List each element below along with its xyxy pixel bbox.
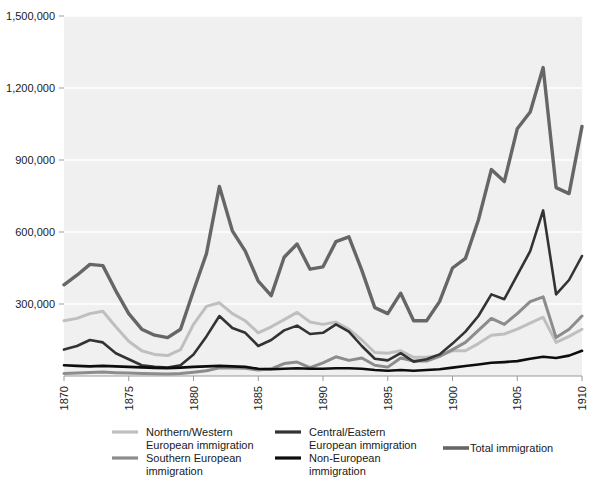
legend-label: Southern European bbox=[146, 452, 241, 464]
x-tick-label: 1910 bbox=[576, 386, 588, 410]
y-tick-label: 900,000 bbox=[15, 154, 55, 166]
y-tick-label: 1,500,000 bbox=[6, 10, 55, 22]
y-tick-label: 600,000 bbox=[15, 226, 55, 238]
x-tick-label: 1895 bbox=[382, 386, 394, 410]
x-tick-label: 1900 bbox=[447, 386, 459, 410]
immigration-line-chart: 300,000600,000900,0001,200,0001,500,000 … bbox=[0, 0, 594, 489]
x-tick-label: 1905 bbox=[511, 386, 523, 410]
legend-label: Total immigration bbox=[470, 442, 553, 454]
legend-label: Non-European bbox=[309, 452, 381, 464]
x-tick-label: 1880 bbox=[188, 386, 200, 410]
x-tick-label: 1885 bbox=[252, 386, 264, 410]
x-tick-label: 1875 bbox=[123, 386, 135, 410]
chart-figure: 300,000600,000900,0001,200,0001,500,000 … bbox=[0, 0, 594, 489]
legend-label: European immigration bbox=[309, 439, 417, 451]
x-tick-label: 1870 bbox=[58, 386, 70, 410]
y-tick-label: 1,200,000 bbox=[6, 82, 55, 94]
legend-label: immigration bbox=[309, 465, 366, 477]
plot-area-background bbox=[64, 16, 582, 376]
legend-label: European immigration bbox=[146, 439, 254, 451]
x-tick-label: 1890 bbox=[317, 386, 329, 410]
y-tick-label: 300,000 bbox=[15, 298, 55, 310]
legend-label: Central/Eastern bbox=[309, 426, 385, 438]
legend-label: Northern/Western bbox=[146, 426, 233, 438]
legend-label: immigration bbox=[146, 465, 203, 477]
